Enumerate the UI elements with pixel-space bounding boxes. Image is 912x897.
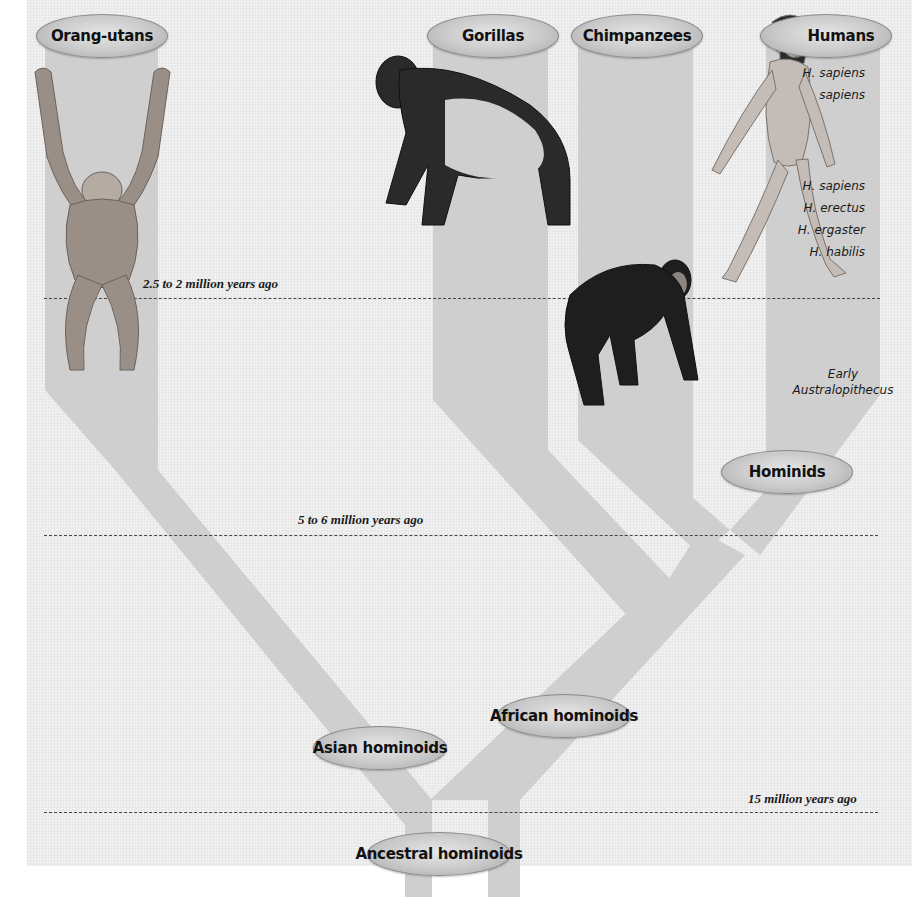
species-item: H. erectus xyxy=(798,197,865,219)
illustrations xyxy=(0,0,912,897)
taxon-african-hominoids: African hominoids xyxy=(497,694,631,738)
taxon-ancestral-hominoids: Ancestral hominoids xyxy=(367,832,511,876)
taxon-humans: Humans xyxy=(760,14,892,58)
species-item: H. habilis xyxy=(798,241,865,263)
species-item: H. sapiens xyxy=(798,175,865,197)
chimpanzee-figure xyxy=(565,260,698,405)
modern-human-label: H. sapiens sapiens xyxy=(803,62,865,106)
early-australopithecus-label: Early Australopithecus xyxy=(773,366,912,398)
gorilla-figure xyxy=(376,56,570,225)
taxon-hominids: Hominids xyxy=(721,450,853,494)
homo-species-list: H. sapiens H. erectus H. ergaster H. hab… xyxy=(798,175,865,263)
species-item: H. ergaster xyxy=(798,219,865,241)
taxon-orangutans: Orang-utans xyxy=(36,14,168,58)
orangutan-figure xyxy=(35,68,170,370)
taxon-gorillas: Gorillas xyxy=(427,14,559,58)
taxon-asian-hominoids: Asian hominoids xyxy=(313,726,447,770)
taxon-chimpanzees: Chimpanzees xyxy=(571,14,703,58)
